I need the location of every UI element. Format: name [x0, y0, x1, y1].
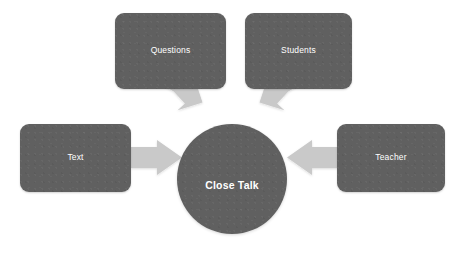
center-node-label: Close Talk — [205, 179, 259, 191]
node-teacher[interactable]: Teacher — [337, 124, 445, 192]
node-questions[interactable]: Questions — [115, 13, 226, 89]
node-questions-label: Questions — [145, 46, 197, 56]
node-students[interactable]: Students — [245, 13, 352, 89]
node-text[interactable]: Text — [20, 124, 131, 192]
diagram-canvas: Questions Students Text Teacher Close Ta… — [0, 0, 463, 257]
arrow-text-to-center — [131, 140, 182, 175]
node-text-label: Text — [61, 153, 89, 163]
node-students-label: Students — [275, 46, 322, 56]
center-node-close-talk[interactable]: Close Talk — [177, 124, 287, 234]
node-teacher-label: Teacher — [369, 153, 412, 163]
arrow-teacher-to-center — [287, 140, 338, 175]
